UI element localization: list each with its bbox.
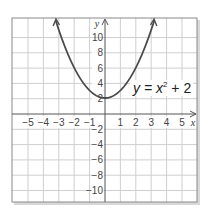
y-axis-label: y — [94, 18, 100, 29]
x-tick: −4 — [38, 117, 50, 128]
y-tick: 10 — [92, 32, 104, 43]
x-tick: 1 — [118, 117, 124, 128]
y-tick: 6 — [97, 63, 103, 74]
y-tick: −6 — [92, 154, 104, 165]
y-tick: −10 — [86, 185, 103, 196]
x-tick: 3 — [148, 117, 154, 128]
x-tick: 2 — [133, 117, 139, 128]
equation-label: y = x2 + 2 — [132, 80, 191, 96]
x-tick: 5 — [179, 117, 185, 128]
x-tick: 4 — [164, 117, 170, 128]
y-tick: −8 — [92, 170, 104, 181]
y-tick: 8 — [97, 47, 103, 58]
x-axis-label: x — [190, 117, 196, 128]
graph: −5 −4 −3 −2 −1 1 2 3 4 5 x 10 8 6 4 2 −2… — [0, 0, 210, 221]
y-tick: −2 — [92, 124, 104, 135]
y-tick: −4 — [92, 139, 104, 150]
y-tick: 4 — [97, 78, 103, 89]
x-tick: −3 — [53, 117, 65, 128]
x-tick: −5 — [22, 117, 34, 128]
x-tick: −2 — [68, 117, 80, 128]
